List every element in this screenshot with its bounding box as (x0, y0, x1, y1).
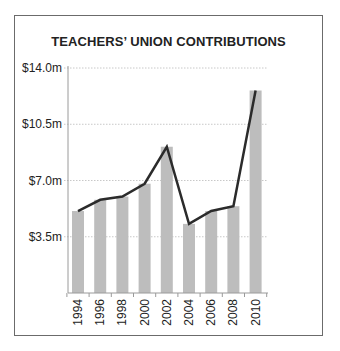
x-tick-label: 1996 (93, 299, 107, 326)
bar (72, 211, 84, 293)
y-tick-label: $10.5m (22, 117, 62, 131)
bar (94, 200, 106, 293)
x-tick-label: 2002 (160, 299, 174, 326)
y-tick-label: $3.5m (29, 230, 62, 244)
bar (161, 147, 173, 293)
x-tick-label: 2006 (204, 299, 218, 326)
x-tick-label: 2008 (226, 299, 240, 326)
bar (116, 197, 128, 293)
bar (250, 91, 262, 294)
y-tick-label: $7.0m (29, 174, 62, 188)
x-tick-label: 2010 (249, 299, 263, 326)
chart-plot: $3.5m$7.0m$10.5m$14.0m199419961998200020… (0, 0, 340, 351)
bar (139, 184, 151, 293)
y-tick-label: $14.0m (22, 61, 62, 75)
x-tick-label: 1994 (71, 299, 85, 326)
x-tick-label: 2000 (138, 299, 152, 326)
bar (183, 224, 195, 293)
x-tick-label: 2004 (182, 299, 196, 326)
bar (205, 211, 217, 293)
x-tick-label: 1998 (115, 299, 129, 326)
bar (227, 206, 239, 293)
